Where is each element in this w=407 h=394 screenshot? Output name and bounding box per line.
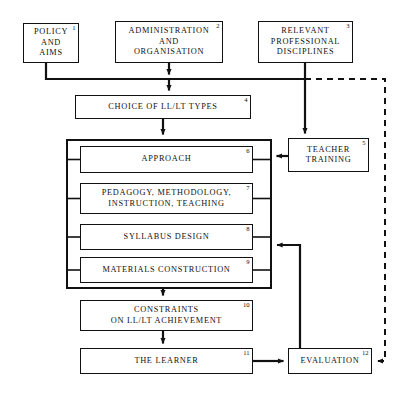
node-teacher-training-label: TEACHER TRAINING xyxy=(297,145,361,166)
node-pedagogy-methodology-instruction-teaching[interactable]: PEDAGOGY, METHODOLOGY, INSTRUCTION, TEAC… xyxy=(80,183,253,214)
node-evaluation-label: EVALUATION xyxy=(297,356,364,366)
node-evaluation[interactable]: EVALUATION 12 xyxy=(288,348,372,374)
flowchart-canvas: POLICY AND AIMS 1 ADMINISTRATION AND ORG… xyxy=(0,0,407,394)
node-evaluation-number: 12 xyxy=(362,349,369,357)
node-choice-of-ll-lt-types-label: CHOICE OF LL/LT TYPES xyxy=(99,102,226,112)
node-policy-and-aims-label: POLICY AND AIMS xyxy=(25,27,77,58)
node-materials-construction[interactable]: MATERIALS CONSTRUCTION 9 xyxy=(80,257,253,283)
node-constraints-on-ll-lt-achievement[interactable]: CONSTRAINTS ON LL/LT ACHIEVEMENT 10 xyxy=(80,300,253,331)
node-administration-and-organisation[interactable]: ADMINISTRATION AND ORGANISATION 2 xyxy=(115,21,223,63)
node-the-learner[interactable]: THE LEARNER 11 xyxy=(80,348,253,374)
node-choice-of-ll-lt-types-number: 4 xyxy=(244,96,247,104)
node-relevant-professional-disciplines[interactable]: RELEVANT PROFESSIONAL DISCIPLINES 3 xyxy=(258,21,353,63)
node-syllabus-design[interactable]: SYLLABUS DESIGN 8 xyxy=(80,224,253,250)
node-syllabus-design-label: SYLLABUS DESIGN xyxy=(115,232,219,242)
node-teacher-training-number: 5 xyxy=(362,139,365,147)
connector-dashed-feedback xyxy=(305,79,385,361)
node-policy-and-aims-number: 1 xyxy=(72,24,75,32)
node-the-learner-number: 11 xyxy=(243,349,249,357)
node-approach[interactable]: APPROACH 6 xyxy=(80,146,253,173)
connector-top-bus xyxy=(46,63,305,79)
node-constraints-on-ll-lt-achievement-label: CONSTRAINTS ON LL/LT ACHIEVEMENT xyxy=(102,305,231,326)
node-approach-label: APPROACH xyxy=(133,154,201,164)
node-teacher-training[interactable]: TEACHER TRAINING 5 xyxy=(288,138,369,172)
node-relevant-professional-disciplines-number: 3 xyxy=(346,22,349,30)
node-pedagogy-methodology-instruction-teaching-number: 7 xyxy=(246,184,249,192)
node-syllabus-design-number: 8 xyxy=(246,225,249,233)
node-pedagogy-methodology-instruction-teaching-label: PEDAGOGY, METHODOLOGY, INSTRUCTION, TEAC… xyxy=(93,188,241,209)
node-administration-and-organisation-number: 2 xyxy=(216,22,219,30)
node-materials-construction-number: 9 xyxy=(246,258,249,266)
connector-evaluation-feedback xyxy=(277,245,300,348)
node-relevant-professional-disciplines-label: RELEVANT PROFESSIONAL DISCIPLINES xyxy=(262,26,349,57)
node-the-learner-label: THE LEARNER xyxy=(125,356,207,366)
node-administration-and-organisation-label: ADMINISTRATION AND ORGANISATION xyxy=(120,26,219,57)
node-choice-of-ll-lt-types[interactable]: CHOICE OF LL/LT TYPES 4 xyxy=(75,95,251,119)
node-constraints-on-ll-lt-achievement-number: 10 xyxy=(243,301,250,309)
node-materials-construction-label: MATERIALS CONSTRUCTION xyxy=(93,265,239,275)
node-policy-and-aims[interactable]: POLICY AND AIMS 1 xyxy=(23,23,79,63)
node-approach-number: 6 xyxy=(246,147,249,155)
